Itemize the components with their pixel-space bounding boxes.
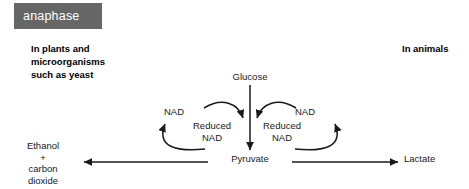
node-ethanol-carbon-dioxide: Ethanol + carbon dioxide — [8, 140, 78, 186]
node-reduced-nad-right: Reduced NAD — [252, 120, 312, 143]
node-nad-left: NAD — [152, 106, 196, 118]
node-nad-right: NAD — [283, 106, 327, 118]
node-lactate: Lactate — [404, 153, 464, 165]
node-pyruvate: Pyruvate — [212, 153, 288, 165]
arrow-nad-to-reduced-nad-left — [204, 102, 243, 118]
node-glucose: Glucose — [208, 71, 292, 83]
diagram-page: anaphase In plants and microorganisms su… — [0, 0, 469, 189]
node-reduced-nad-left: Reduced NAD — [182, 120, 242, 143]
